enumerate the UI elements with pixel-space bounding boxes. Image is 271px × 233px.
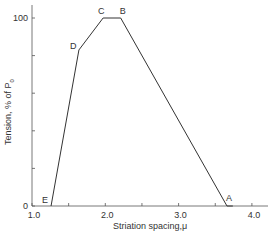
y-axis-title-subscript: 0 bbox=[9, 78, 15, 82]
point-label-d: D bbox=[70, 41, 77, 51]
point-label-c: C bbox=[98, 6, 105, 16]
y-axis-title-main: Tension, % of P bbox=[3, 82, 13, 145]
point-label-a: A bbox=[226, 193, 232, 203]
y-tick-label: 100 bbox=[13, 13, 28, 23]
x-tick-label: 3.0 bbox=[174, 210, 187, 220]
y-axis-title: Tension, % of P0 bbox=[3, 78, 15, 145]
y-tick-label: 0 bbox=[23, 201, 28, 211]
tension-curve bbox=[51, 18, 233, 206]
x-tick-label: 2.0 bbox=[101, 210, 114, 220]
length-tension-chart: 1.02.03.04.00100 EDCBA Striation spacing… bbox=[0, 0, 271, 233]
point-label-e: E bbox=[42, 195, 48, 205]
point-labels: EDCBA bbox=[42, 6, 232, 205]
x-tick-label: 1.0 bbox=[28, 210, 41, 220]
data-series bbox=[51, 18, 233, 206]
x-axis-title: Striation spacing,μ bbox=[113, 221, 187, 231]
axes: 1.02.03.04.00100 bbox=[13, 5, 268, 220]
x-tick-label: 4.0 bbox=[248, 210, 261, 220]
point-label-b: B bbox=[120, 6, 126, 16]
